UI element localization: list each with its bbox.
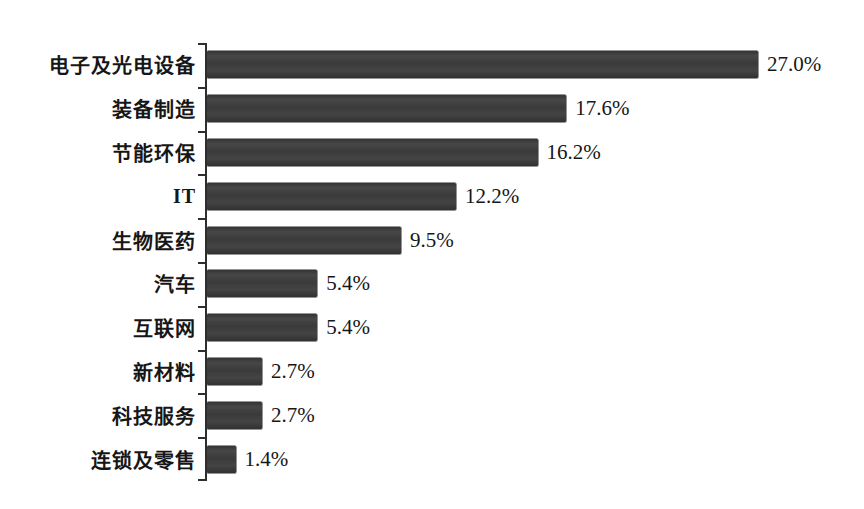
category-label: 科技服务 bbox=[0, 401, 205, 430]
value-label: 5.4% bbox=[326, 315, 370, 340]
axis-tick bbox=[198, 218, 206, 220]
bar-row: 节能环保16.2% bbox=[0, 131, 864, 175]
bar-track: 2.7% bbox=[205, 358, 864, 385]
axis-tick bbox=[198, 350, 206, 352]
bar-row: 汽车5.4% bbox=[0, 262, 864, 306]
value-label: 16.2% bbox=[547, 140, 601, 165]
axis-tick bbox=[198, 437, 206, 439]
bar bbox=[207, 183, 456, 210]
category-label: IT bbox=[0, 185, 205, 208]
bar bbox=[207, 314, 317, 341]
bar bbox=[207, 95, 566, 122]
axis-tick bbox=[198, 306, 206, 308]
bar bbox=[207, 402, 262, 429]
axis-tick bbox=[198, 393, 206, 395]
category-label: 汽车 bbox=[0, 269, 205, 298]
bar-track: 5.4% bbox=[205, 314, 864, 341]
bar-row: 科技服务2.7% bbox=[0, 393, 864, 437]
value-label: 5.4% bbox=[326, 271, 370, 296]
axis-tick bbox=[198, 479, 206, 481]
value-label: 12.2% bbox=[465, 184, 519, 209]
bar-row: 生物医药9.5% bbox=[0, 218, 864, 262]
bar-row: 新材料2.7% bbox=[0, 350, 864, 394]
axis-tick bbox=[198, 174, 206, 176]
axis-tick bbox=[198, 131, 206, 133]
bar-row: 装备制造17.6% bbox=[0, 87, 864, 131]
plot-area: 电子及光电设备27.0%装备制造17.6%节能环保16.2%IT12.2%生物医… bbox=[0, 43, 864, 481]
category-label: 连锁及零售 bbox=[0, 445, 205, 474]
bar-row: 互联网5.4% bbox=[0, 306, 864, 350]
category-label: 电子及光电设备 bbox=[0, 50, 205, 79]
bar-track: 5.4% bbox=[205, 270, 864, 297]
bar bbox=[207, 270, 317, 297]
category-label: 互联网 bbox=[0, 313, 205, 342]
bar-row: IT12.2% bbox=[0, 174, 864, 218]
category-label: 装备制造 bbox=[0, 94, 205, 123]
bar bbox=[207, 358, 262, 385]
bar-track: 17.6% bbox=[205, 95, 864, 122]
bar-row: 电子及光电设备27.0% bbox=[0, 43, 864, 87]
bar-track: 9.5% bbox=[205, 227, 864, 254]
axis-tick bbox=[198, 43, 206, 45]
category-label: 新材料 bbox=[0, 357, 205, 386]
bar bbox=[207, 51, 758, 78]
bar-row: 连锁及零售1.4% bbox=[0, 437, 864, 481]
bar-track: 16.2% bbox=[205, 139, 864, 166]
value-label: 27.0% bbox=[767, 52, 821, 77]
value-label: 9.5% bbox=[410, 228, 454, 253]
value-label: 17.6% bbox=[575, 96, 629, 121]
axis-tick bbox=[198, 262, 206, 264]
category-label: 节能环保 bbox=[0, 138, 205, 167]
value-label: 2.7% bbox=[271, 359, 315, 384]
bar-rows: 电子及光电设备27.0%装备制造17.6%节能环保16.2%IT12.2%生物医… bbox=[0, 43, 864, 481]
category-label: 生物医药 bbox=[0, 226, 205, 255]
bar-track: 1.4% bbox=[205, 446, 864, 473]
bar bbox=[207, 227, 401, 254]
value-label: 1.4% bbox=[245, 447, 289, 472]
axis-tick bbox=[198, 87, 206, 89]
bar-track: 27.0% bbox=[205, 51, 864, 78]
bar-chart: 电子及光电设备27.0%装备制造17.6%节能环保16.2%IT12.2%生物医… bbox=[0, 0, 864, 509]
bar bbox=[207, 139, 538, 166]
bar-track: 12.2% bbox=[205, 183, 864, 210]
value-label: 2.7% bbox=[271, 403, 315, 428]
bar bbox=[207, 446, 236, 473]
bar-track: 2.7% bbox=[205, 402, 864, 429]
